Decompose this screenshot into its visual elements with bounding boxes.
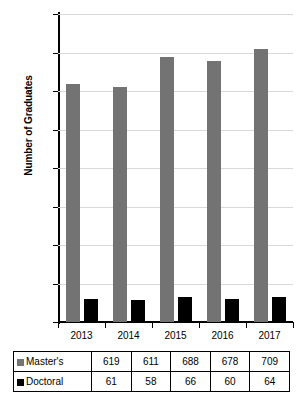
table-cell: 678 — [210, 352, 250, 372]
legend-label: Master's — [26, 356, 63, 367]
legend-swatch-masters-icon — [17, 359, 24, 366]
x-axis-tick — [58, 322, 59, 328]
table-cell: 688 — [171, 352, 211, 372]
x-axis-label-2017: 2017 — [246, 330, 293, 342]
table-cell: 611 — [131, 352, 171, 372]
table-row: Master's619611688678709 — [14, 352, 290, 372]
table-cell: 60 — [210, 372, 250, 392]
y-axis-title: Number of Graduates — [23, 36, 34, 216]
x-axis-tick — [199, 322, 200, 328]
bar-group — [58, 14, 105, 322]
x-axis-label-2015: 2015 — [152, 330, 199, 342]
data-table: Master's619611688678709Doctoral615866606… — [13, 351, 290, 392]
table-cell: 709 — [250, 352, 290, 372]
bar-chart: Number of Graduates 01002003004005006007… — [0, 0, 300, 395]
bar-group — [246, 14, 293, 322]
table-cell: 66 — [171, 372, 211, 392]
bar-doctoral-2015 — [178, 297, 192, 322]
x-axis-tick — [293, 322, 294, 328]
legend-item-doctoral: Doctoral — [14, 372, 92, 392]
x-axis-tick — [152, 322, 153, 328]
bar-doctoral-2013 — [84, 299, 98, 322]
legend-label: Doctoral — [26, 376, 63, 387]
bar-doctoral-2017 — [272, 297, 286, 322]
table-cell: 61 — [92, 372, 132, 392]
bar-masters-2013 — [66, 84, 80, 322]
bar-group — [152, 14, 199, 322]
bar-doctoral-2016 — [225, 299, 239, 322]
bar-group — [199, 14, 246, 322]
x-axis-tick — [246, 322, 247, 328]
x-axis-label-2014: 2014 — [105, 330, 152, 342]
legend-item-masters: Master's — [14, 352, 92, 372]
bar-masters-2015 — [160, 57, 174, 322]
plot-area: 0100200300400500600700800 — [58, 14, 293, 322]
legend-swatch-doctoral-icon — [17, 379, 24, 386]
table-cell: 64 — [250, 372, 290, 392]
bar-masters-2014 — [113, 87, 127, 322]
table-cell: 58 — [131, 372, 171, 392]
bar-group — [105, 14, 152, 322]
bar-masters-2016 — [207, 61, 221, 322]
x-axis-tick — [105, 322, 106, 328]
x-axis-label-2016: 2016 — [199, 330, 246, 342]
bar-doctoral-2014 — [131, 300, 145, 322]
table-cell: 619 — [92, 352, 132, 372]
bar-masters-2017 — [254, 49, 268, 322]
table-row: Doctoral6158666064 — [14, 372, 290, 392]
x-axis-label-2013: 2013 — [58, 330, 105, 342]
